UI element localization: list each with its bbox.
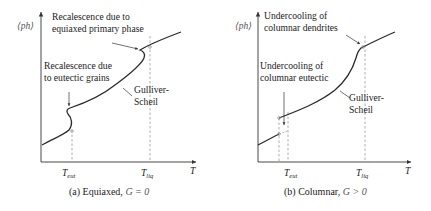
t-liq-label: Tliq <box>356 167 368 181</box>
caption-b: (b) Columnar, G > 0 <box>284 186 367 197</box>
annotation-dendrite-line2: columnar dendrites <box>264 22 338 33</box>
caption-a: (a) Equiaxed, G = 0 <box>69 186 149 197</box>
annotation-primary-line2: equiaxed primary phase <box>52 23 144 34</box>
t-eut-label: Teut <box>284 167 297 181</box>
x-axis-label: T <box>190 165 195 176</box>
enthalpy-curve-lower <box>258 134 279 145</box>
panel-columnar: ⟨ph⟩ Undercooling of columnar dendrites … <box>215 0 431 211</box>
primary-arrow <box>112 43 138 49</box>
annotation-eutectic-line2: columnar eutectic <box>260 72 328 83</box>
t-liq-label: Tliq <box>141 167 153 181</box>
annotation-gs-line2: Scheil <box>349 104 373 115</box>
t-eut-label: Teut <box>62 167 75 181</box>
annotation-eutectic-line2: to eutectic grains <box>44 72 110 83</box>
dendrite-arrow <box>346 35 360 44</box>
x-axis-label: T <box>405 165 410 176</box>
y-axis-label: ⟨ph⟩ <box>235 21 252 32</box>
annotation-dendrite-line1: Undercooling of <box>264 10 327 21</box>
y-axis-label: ⟨ph⟩ <box>17 21 34 32</box>
annotation-gs-line1: Gulliver- <box>134 84 169 95</box>
annotation-gs-line2: Scheil <box>134 96 158 107</box>
annotation-primary-line1: Recalescence due to <box>52 11 130 22</box>
panel-equiaxed: ⟨ph⟩ Recalescence due to equiaxed primar… <box>0 0 215 211</box>
annotation-gs-line1: Gulliver- <box>349 92 384 103</box>
annotation-eutectic-line1: Undercooling of <box>260 60 323 71</box>
annotation-eutectic-line1: Recalescence due <box>44 60 112 71</box>
gulliver-scheil-pointer <box>123 88 132 96</box>
